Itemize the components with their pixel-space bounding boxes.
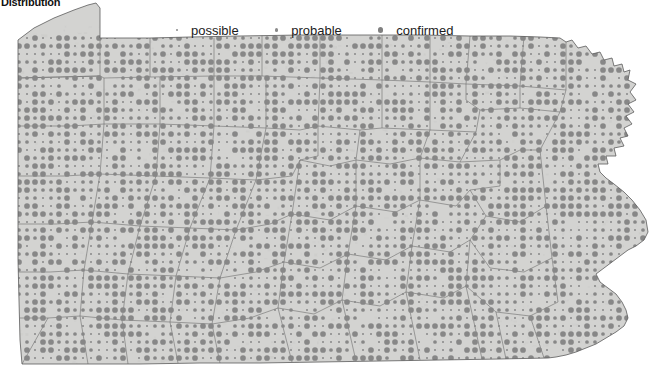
texture-speck bbox=[392, 237, 394, 238]
breeding-dot-confirmed bbox=[520, 195, 526, 201]
breeding-dot-probable bbox=[433, 276, 437, 280]
breeding-dot-confirmed bbox=[104, 211, 110, 217]
breeding-dot-probable bbox=[161, 84, 165, 88]
breeding-dot-possible bbox=[474, 325, 476, 327]
texture-speck bbox=[338, 45, 341, 47]
breeding-dot-possible bbox=[178, 261, 180, 263]
breeding-dot-probable bbox=[481, 76, 485, 80]
breeding-dot-probable bbox=[377, 228, 381, 232]
breeding-dot-confirmed bbox=[376, 355, 382, 361]
breeding-dot-confirmed bbox=[496, 91, 502, 97]
breeding-dot-possible bbox=[290, 221, 292, 223]
breeding-dot-confirmed bbox=[480, 275, 486, 281]
breeding-dot-possible bbox=[50, 125, 52, 127]
breeding-dot-confirmed bbox=[48, 99, 54, 105]
breeding-dot-probable bbox=[345, 172, 349, 176]
breeding-dot-possible bbox=[522, 317, 524, 319]
breeding-dot-confirmed bbox=[520, 147, 526, 153]
breeding-dot-confirmed bbox=[280, 299, 286, 305]
breeding-dot-probable bbox=[209, 100, 213, 104]
breeding-dot-confirmed bbox=[48, 131, 54, 137]
texture-speck bbox=[494, 71, 498, 73]
breeding-dot-confirmed bbox=[64, 267, 70, 273]
breeding-dot-confirmed bbox=[488, 315, 494, 321]
breeding-dot-confirmed bbox=[80, 155, 86, 161]
breeding-dot-confirmed bbox=[456, 67, 462, 73]
breeding-dot-confirmed bbox=[528, 35, 534, 41]
texture-speck bbox=[332, 201, 334, 204]
breeding-dot-possible bbox=[370, 101, 372, 103]
breeding-dot-possible bbox=[274, 357, 276, 359]
breeding-dot-probable bbox=[153, 220, 157, 224]
breeding-dot-probable bbox=[25, 212, 29, 216]
breeding-dot-probable bbox=[529, 268, 533, 272]
breeding-dot-probable bbox=[161, 156, 165, 160]
breeding-dot-possible bbox=[314, 237, 316, 239]
breeding-dot-confirmed bbox=[264, 139, 270, 145]
texture-speck bbox=[575, 148, 577, 151]
breeding-dot-confirmed bbox=[40, 283, 46, 289]
breeding-dot-probable bbox=[177, 68, 181, 72]
breeding-dot-possible bbox=[610, 229, 612, 231]
breeding-dot-probable bbox=[481, 108, 485, 112]
breeding-dot-possible bbox=[378, 341, 380, 343]
texture-speck bbox=[445, 72, 448, 75]
texture-speck bbox=[145, 120, 147, 122]
breeding-dot-confirmed bbox=[296, 163, 302, 169]
breeding-dot-probable bbox=[153, 84, 157, 88]
breeding-dot-probable bbox=[281, 316, 285, 320]
breeding-dot-probable bbox=[89, 324, 93, 328]
breeding-dot-probable bbox=[185, 332, 189, 336]
breeding-dot-confirmed bbox=[168, 307, 174, 313]
breeding-dot-confirmed bbox=[360, 283, 366, 289]
texture-speck bbox=[542, 227, 545, 229]
breeding-dot-confirmed bbox=[512, 67, 518, 73]
breeding-dot-confirmed bbox=[592, 179, 598, 185]
breeding-dot-possible bbox=[378, 301, 380, 303]
texture-speck bbox=[570, 235, 571, 236]
breeding-dot-possible bbox=[378, 117, 380, 119]
breeding-dot-probable bbox=[449, 212, 453, 216]
texture-speck bbox=[312, 364, 314, 367]
breeding-dot-confirmed bbox=[240, 195, 246, 201]
breeding-dot-confirmed bbox=[176, 275, 182, 281]
texture-speck bbox=[414, 311, 416, 313]
breeding-dot-probable bbox=[249, 84, 253, 88]
texture-speck bbox=[509, 245, 511, 247]
breeding-dot-probable bbox=[193, 260, 197, 264]
breeding-dot-confirmed bbox=[360, 275, 366, 281]
breeding-dot-confirmed bbox=[504, 59, 510, 65]
breeding-dot-possible bbox=[426, 293, 428, 295]
texture-speck bbox=[544, 211, 546, 214]
breeding-dot-confirmed bbox=[376, 43, 382, 49]
breeding-dot-confirmed bbox=[32, 35, 38, 41]
breeding-dot-probable bbox=[457, 172, 461, 176]
breeding-dot-confirmed bbox=[216, 115, 222, 121]
breeding-dot-confirmed bbox=[56, 43, 62, 49]
breeding-dot-possible bbox=[370, 285, 372, 287]
breeding-dot-confirmed bbox=[408, 283, 414, 289]
breeding-dot-confirmed bbox=[336, 99, 342, 105]
breeding-dot-probable bbox=[497, 172, 501, 176]
breeding-dot-possible bbox=[386, 149, 388, 151]
texture-speck bbox=[327, 76, 329, 77]
breeding-dot-probable bbox=[305, 180, 309, 184]
texture-speck bbox=[634, 118, 637, 120]
breeding-dot-possible bbox=[186, 69, 188, 71]
breeding-dot-confirmed bbox=[296, 211, 302, 217]
breeding-dot-confirmed bbox=[192, 235, 198, 241]
breeding-dot-confirmed bbox=[40, 291, 46, 297]
breeding-dot-confirmed bbox=[600, 315, 606, 321]
breeding-dot-confirmed bbox=[280, 123, 286, 129]
breeding-dot-confirmed bbox=[544, 203, 550, 209]
breeding-dot-confirmed bbox=[24, 355, 30, 361]
breeding-dot-probable bbox=[361, 156, 365, 160]
breeding-dot-possible bbox=[554, 301, 556, 303]
texture-speck bbox=[294, 318, 298, 320]
breeding-dot-confirmed bbox=[224, 219, 230, 225]
texture-speck bbox=[623, 245, 624, 247]
breeding-dot-possible bbox=[226, 181, 228, 183]
breeding-dot-probable bbox=[537, 116, 541, 120]
breeding-dot-confirmed bbox=[528, 315, 534, 321]
breeding-dot-confirmed bbox=[176, 51, 182, 57]
